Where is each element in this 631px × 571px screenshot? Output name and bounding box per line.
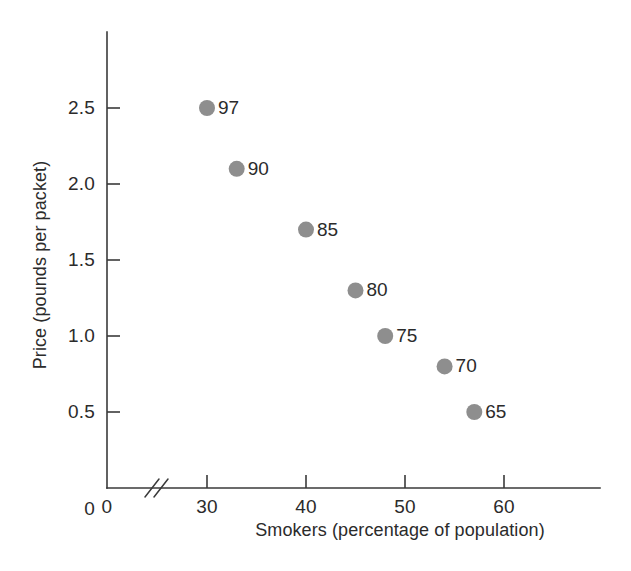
data-point[interactable]: 85 — [298, 219, 338, 240]
data-point-label: 90 — [248, 158, 269, 179]
axes-group — [107, 32, 600, 497]
data-point[interactable]: 70 — [437, 355, 477, 376]
data-point-label: 70 — [456, 355, 477, 376]
data-point[interactable]: 90 — [229, 158, 269, 179]
data-point-marker[interactable] — [229, 161, 245, 177]
data-point-label: 97 — [218, 97, 239, 118]
y-axis-tick-label: 2.0 — [68, 173, 95, 194]
x-axis-title: Smokers (percentage of population) — [255, 520, 545, 540]
data-point-marker[interactable] — [466, 404, 482, 420]
data-point-label: 65 — [485, 401, 506, 422]
data-point-marker[interactable] — [348, 282, 364, 298]
x-axis-tick-label: 50 — [394, 496, 416, 517]
ticks-group — [107, 108, 504, 488]
y-axis-tick-label: 0 — [84, 498, 95, 519]
data-point-marker[interactable] — [377, 328, 393, 344]
y-axis-tick-label: 2.5 — [68, 97, 95, 118]
data-point[interactable]: 80 — [348, 279, 388, 300]
scatter-chart-figure: 00.51.01.52.02.5304050600 97908580757065… — [0, 0, 631, 571]
data-point[interactable]: 97 — [199, 97, 239, 118]
y-axis-title: Price (pounds per packet) — [30, 161, 50, 370]
data-point[interactable]: 65 — [466, 401, 506, 422]
data-point[interactable]: 75 — [377, 325, 417, 346]
y-axis-tick-label: 1.5 — [68, 249, 95, 270]
data-point-marker[interactable] — [437, 358, 453, 374]
data-point-marker[interactable] — [199, 100, 215, 116]
data-point-label: 80 — [367, 279, 388, 300]
y-axis-tick-label: 1.0 — [68, 325, 95, 346]
data-points-group: 97908580757065 — [199, 97, 506, 422]
x-axis-tick-label: 30 — [196, 496, 218, 517]
chart-canvas: 00.51.01.52.02.5304050600 97908580757065… — [0, 0, 631, 571]
x-axis-tick-label: 40 — [295, 496, 317, 517]
x-axis-tick-label: 60 — [493, 496, 515, 517]
y-axis-tick-label: 0.5 — [68, 401, 95, 422]
data-point-marker[interactable] — [298, 222, 314, 238]
data-point-label: 75 — [396, 325, 417, 346]
data-point-label: 85 — [317, 219, 338, 240]
origin-tick-label: 0 — [102, 496, 113, 517]
tick-labels-group: 00.51.01.52.02.5304050600 — [68, 97, 515, 519]
